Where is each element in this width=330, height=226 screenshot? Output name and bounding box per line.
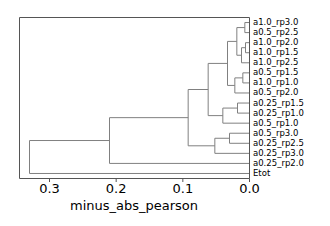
leaf-label-a0.5_rp3.0: a0.5_rp3.0 xyxy=(253,128,298,138)
leaf-label-a0.25_rp1.5: a0.25_rp1.5 xyxy=(253,98,304,108)
leaf-label-a1.0_rp1.5: a1.0_rp1.5 xyxy=(253,47,298,57)
x-axis-title: minus_abs_pearson xyxy=(70,198,198,213)
dendrogram-link-30 xyxy=(30,141,250,174)
leaf-label-a1.0_rp1.0: a1.0_rp1.0 xyxy=(253,77,298,87)
leaf-labels: a1.0_rp3.0a0.5_rp2.5a1.0_rp2.0a1.0_rp1.5… xyxy=(253,17,304,178)
x-tick-label-2: 0.1 xyxy=(172,181,193,196)
leaf-label-a1.0_rp2.5: a1.0_rp2.5 xyxy=(253,57,298,67)
dendrogram-link-24 xyxy=(223,108,250,123)
x-axis-ticks xyxy=(50,179,250,183)
dendrogram-links xyxy=(30,23,250,174)
x-axis-tick-labels: 0.30.20.10.0 xyxy=(39,181,260,196)
axis-spines xyxy=(20,18,250,179)
x-tick-label-1: 0.2 xyxy=(106,181,127,196)
dendrogram-plot: 0.30.20.10.0 a1.0_rp3.0a0.5_rp2.5a1.0_rp… xyxy=(0,0,330,226)
dendrogram-link-28 xyxy=(188,90,215,146)
dendrogram-figure: 0.30.20.10.0 a1.0_rp3.0a0.5_rp2.5a1.0_rp… xyxy=(0,0,330,226)
dendrogram-link-21 xyxy=(235,78,250,93)
dendrogram-link-20 xyxy=(243,73,250,83)
dendrogram-link-23 xyxy=(238,103,250,113)
leaf-label-a0.5_rp2.0: a0.5_rp2.0 xyxy=(253,87,298,97)
leaf-label-a0.5_rp2.5: a0.5_rp2.5 xyxy=(253,27,298,37)
leaf-label-a0.25_rp2.0: a0.25_rp2.0 xyxy=(253,158,304,168)
leaf-label-a0.5_rp1.0: a0.5_rp1.0 xyxy=(253,118,298,128)
leaf-label-Etot: Etot xyxy=(253,168,271,178)
x-tick-label-0: 0.3 xyxy=(39,181,60,196)
leaf-label-a1.0_rp2.0: a1.0_rp2.0 xyxy=(253,37,298,47)
leaf-label-a0.25_rp3.0: a0.25_rp3.0 xyxy=(253,148,304,158)
dendrogram-link-19 xyxy=(237,28,245,56)
leaf-label-a0.5_rp1.5: a0.5_rp1.5 xyxy=(253,67,298,77)
leaf-label-a0.25_rp2.5: a0.25_rp2.5 xyxy=(253,138,304,148)
leaf-label-a1.0_rp3.0: a1.0_rp3.0 xyxy=(253,17,298,27)
dendrogram-link-27 xyxy=(215,138,250,153)
dendrogram-link-16 xyxy=(245,23,250,33)
dendrogram-link-17 xyxy=(246,43,250,53)
dendrogram-link-29 xyxy=(110,118,250,164)
leaf-label-a0.25_rp1.0: a0.25_rp1.0 xyxy=(253,108,304,118)
dendrogram-link-22 xyxy=(228,41,237,85)
x-tick-label-3: 0.0 xyxy=(239,181,260,196)
dendrogram-link-26 xyxy=(230,133,250,143)
